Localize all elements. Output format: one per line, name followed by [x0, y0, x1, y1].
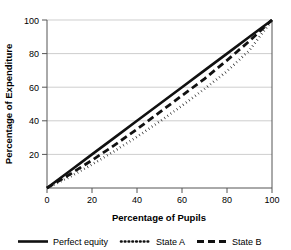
y-tick-label-100: 100	[24, 16, 39, 26]
y-tick-label-80: 80	[29, 49, 39, 59]
x-axis-title: Percentage of Pupils	[112, 212, 206, 223]
legend-label-perfect-equity: Perfect equity	[53, 237, 109, 247]
x-tick-label-60: 60	[177, 195, 187, 205]
y-tick-label-40: 40	[29, 116, 39, 126]
y-axis-title: Percentage of Expenditure	[3, 44, 14, 164]
x-tick-label-40: 40	[132, 195, 142, 205]
y-tick-label-20: 20	[29, 150, 39, 160]
chart-figure: 100 80 60 40 20 0 20 40 60 80 100 Percen…	[0, 0, 291, 250]
x-tick-label-0: 0	[44, 195, 49, 205]
x-tick-label-100: 100	[264, 195, 279, 205]
y-tick-label-60: 60	[29, 83, 39, 93]
x-tick-label-20: 20	[87, 195, 97, 205]
legend-label-state-a: State A	[156, 237, 185, 247]
x-tick-label-80: 80	[222, 195, 232, 205]
lorenz-curve-chart: 100 80 60 40 20 0 20 40 60 80 100 Percen…	[0, 0, 291, 250]
legend-label-state-b: State B	[232, 237, 262, 247]
